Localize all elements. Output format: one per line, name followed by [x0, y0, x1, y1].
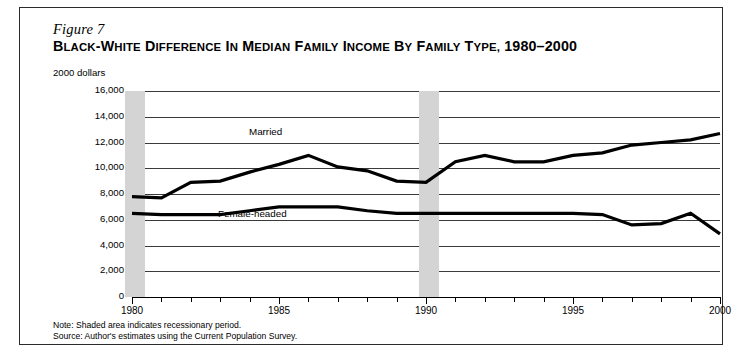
x-axis-tick-label: 1985 [249, 305, 309, 316]
x-axis-tick [661, 297, 662, 302]
x-axis-tick [338, 297, 339, 302]
figure-frame: Figure 7 BLACK-WHITE DIFFERENCE IN MEDIA… [19, 7, 723, 345]
x-axis-tick [191, 297, 192, 302]
y-axis-tick-label: 16,000 [60, 85, 124, 95]
series-line-married [132, 133, 720, 197]
x-axis-tick-label: 1990 [396, 305, 456, 316]
x-axis-tick [691, 297, 692, 302]
x-axis-tick [544, 297, 545, 302]
x-axis-tick [220, 297, 221, 302]
figure-number: Figure 7 [53, 21, 104, 38]
x-axis-tick [602, 297, 603, 302]
x-axis-tick [308, 297, 309, 302]
y-axis-tick-label: 14,000 [60, 111, 124, 121]
x-axis-tick-label: 1995 [543, 305, 603, 316]
x-axis-tick [720, 297, 721, 304]
x-axis-tick [632, 297, 633, 302]
x-axis-tick [367, 297, 368, 302]
x-axis-tick [397, 297, 398, 302]
x-axis-tick [573, 297, 574, 304]
note-text: Note: Shaded area indicates recessionary… [53, 320, 297, 331]
x-axis-tick [161, 297, 162, 302]
y-axis-tick-label: 0 [60, 291, 124, 301]
x-axis-tick [279, 297, 280, 304]
x-axis-tick [514, 297, 515, 302]
source-text: Source: Author's estimates using the Cur… [53, 331, 297, 342]
y-axis-tick-label: 8,000 [60, 188, 124, 198]
y-axis-title: 2000 dollars [53, 67, 105, 78]
y-axis-tick-label: 4,000 [60, 240, 124, 250]
y-axis-tick-label: 2,000 [60, 265, 124, 275]
x-axis-tick [455, 297, 456, 302]
y-axis-tick-label: 10,000 [60, 162, 124, 172]
x-axis-tick [132, 297, 133, 304]
page-title: BLACK-WHITE DIFFERENCE IN MEDIAN FAMILY … [53, 38, 577, 54]
series-label-female-headed: Female-headed [218, 208, 287, 219]
series-label-married: Married [249, 126, 282, 137]
y-axis-tick-label: 6,000 [60, 214, 124, 224]
y-axis-tick-label: 12,000 [60, 137, 124, 147]
x-axis-tick-label: 2000 [690, 305, 750, 316]
x-axis-tick [426, 297, 427, 304]
x-axis-tick [250, 297, 251, 302]
series-layer [132, 91, 720, 297]
figure-screenshot: Figure 7 BLACK-WHITE DIFFERENCE IN MEDIA… [0, 0, 750, 355]
x-axis-tick [485, 297, 486, 302]
x-axis-tick-label: 1980 [102, 305, 162, 316]
footnotes: Note: Shaded area indicates recessionary… [53, 320, 297, 342]
